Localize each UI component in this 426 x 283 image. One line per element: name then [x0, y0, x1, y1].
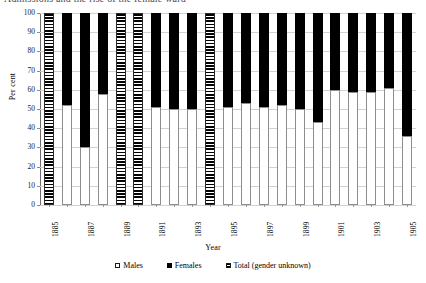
bar-slot: [40, 13, 58, 205]
bar-segment-females: [348, 13, 358, 92]
bar-segment-females: [384, 13, 394, 88]
x-axis-title: Year: [0, 243, 426, 252]
bar-slot: [76, 13, 94, 205]
x-axis-tick-label: 1891: [159, 222, 167, 237]
y-axis-tick-label: 40: [28, 124, 36, 132]
chart-title-clipped: Admissions and the rise of the female wa…: [0, 0, 426, 7]
bar-segment-males: [330, 90, 340, 205]
bar-slot: [112, 13, 130, 205]
legend-item-total[interactable]: Total (gender unknown): [226, 261, 311, 270]
x-axis-tick-label: 1903: [374, 222, 382, 237]
bar-slot: [291, 13, 309, 205]
legend-label: Males: [123, 261, 143, 270]
bar-slot: [94, 13, 112, 205]
bar-slot: [380, 13, 398, 205]
bar-segment-males: [313, 122, 323, 205]
legend-label: Total (gender unknown): [234, 261, 311, 270]
bar-slot: [219, 13, 237, 205]
legend-item-males[interactable]: Males: [115, 261, 143, 270]
bar-slot: [398, 13, 416, 205]
bar-slot: [165, 13, 183, 205]
legend-swatch-icon-total: [226, 263, 231, 268]
x-axis-tick-mark: [85, 205, 86, 207]
legend-label: Females: [175, 261, 202, 270]
bar-segment-males: [402, 136, 412, 205]
bar-segment-females: [366, 13, 376, 92]
x-axis-tick-mark: [246, 205, 247, 207]
bar-slot: [147, 13, 165, 205]
x-axis-tick-label: 1885: [52, 222, 60, 237]
x-axis-tick-labels: 1885188718891891189318951897189919011903…: [40, 207, 416, 247]
bar-segment-females: [259, 13, 269, 107]
bar-segment-females: [169, 13, 179, 109]
bar-slot: [255, 13, 273, 205]
x-axis-tick-mark: [103, 205, 104, 207]
bar-segment-males: [223, 107, 233, 205]
bar-slot: [326, 13, 344, 205]
x-axis-tick-mark: [138, 205, 139, 207]
bar-segment-males: [151, 107, 161, 205]
chart-figure: Admissions and the rise of the female wa…: [0, 0, 426, 283]
bar-series-group: [40, 13, 416, 205]
legend-swatch-icon-females: [167, 263, 172, 268]
y-axis-tick-label: 90: [28, 28, 36, 36]
bar-segment-males: [384, 88, 394, 205]
legend-item-females[interactable]: Females: [167, 261, 202, 270]
bar-slot: [130, 13, 148, 205]
bar-slot: [183, 13, 201, 205]
chart-title-text: Admissions and the rise of the female wa…: [4, 0, 186, 4]
x-axis-tick-mark: [174, 205, 175, 207]
x-axis-tick-label: 1889: [124, 222, 132, 237]
bar-slot: [58, 13, 76, 205]
y-axis-tick-label: 0: [31, 201, 35, 209]
bar-segment-total: [116, 13, 126, 205]
bar-segment-males: [169, 109, 179, 205]
bar-segment-total: [133, 13, 143, 205]
bar-segment-total: [44, 13, 54, 205]
chart-legend: MalesFemalesTotal (gender unknown): [0, 261, 426, 270]
bar-slot: [273, 13, 291, 205]
y-axis-tick-label: 60: [28, 86, 36, 94]
x-axis-tick-mark: [371, 205, 372, 207]
bar-segment-females: [241, 13, 251, 103]
x-axis-tick-mark: [67, 205, 68, 207]
x-axis-tick-mark: [389, 205, 390, 207]
bar-segment-females: [62, 13, 72, 105]
x-axis-tick-mark: [318, 205, 319, 207]
x-axis-tick-label: 1887: [88, 222, 96, 237]
y-axis-tick-label: 100: [24, 9, 35, 17]
legend-swatch-icon-males: [115, 263, 120, 268]
bar-segment-males: [80, 147, 90, 205]
x-axis-tick-label: 1899: [303, 222, 311, 237]
bar-segment-males: [348, 92, 358, 205]
x-axis-tick-mark: [282, 205, 283, 207]
bar-segment-females: [151, 13, 161, 107]
x-axis-tick-label: 1897: [267, 222, 275, 237]
bar-segment-males: [187, 109, 197, 205]
bar-segment-females: [187, 13, 197, 109]
x-axis-tick-mark: [156, 205, 157, 207]
x-axis-tick-mark: [335, 205, 336, 207]
bar-segment-males: [277, 105, 287, 205]
x-axis-tick-mark: [210, 205, 211, 207]
x-axis-tick-label: 1895: [231, 222, 239, 237]
bar-segment-males: [259, 107, 269, 205]
bar-segment-females: [98, 13, 108, 94]
x-axis-tick-mark: [192, 205, 193, 207]
bar-segment-total: [205, 13, 215, 205]
bar-segment-females: [223, 13, 233, 107]
x-axis-tick-mark: [49, 205, 50, 207]
bar-slot: [309, 13, 327, 205]
bar-segment-males: [366, 92, 376, 205]
y-axis-tick-label: 10: [28, 182, 36, 190]
x-axis-tick-label: 1893: [195, 222, 203, 237]
y-axis-tick-label: 80: [28, 48, 36, 56]
bar-segment-males: [241, 103, 251, 205]
bar-segment-males: [62, 105, 72, 205]
y-axis-tick-label: 70: [28, 67, 36, 75]
bar-segment-males: [98, 94, 108, 205]
bar-segment-females: [80, 13, 90, 147]
y-axis-title: Per cent: [8, 57, 17, 117]
bar-segment-females: [330, 13, 340, 90]
y-axis-tick-label: 20: [28, 163, 36, 171]
